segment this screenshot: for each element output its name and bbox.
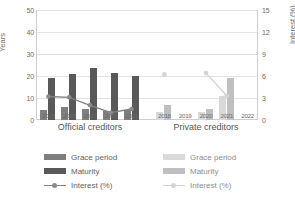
y2-tick-label: 6 (262, 73, 284, 80)
y2-tick-label: 0 (262, 117, 284, 124)
interest-line-private (154, 10, 258, 120)
legend-label: Maturity (71, 167, 99, 176)
x-tick-label: 2018 (154, 112, 175, 120)
legend-item-interest[interactable]: Interest (%) (44, 178, 164, 192)
y2-tick-label: 9 (262, 51, 284, 58)
legend-swatch-interest (44, 182, 66, 189)
interest-marker (46, 94, 51, 99)
y-axis-title-left: Years (0, 33, 7, 52)
y-tick-label: 40 (12, 29, 34, 36)
legend-label: Grace period (71, 153, 117, 162)
y-tick-label: 10 (12, 95, 34, 102)
legend-label: Interest (%) (71, 181, 112, 190)
x-tick-label: 2018 (38, 112, 59, 120)
legend-swatch-interest (163, 182, 185, 189)
legend-label: Grace period (190, 153, 236, 162)
legend-official: Grace period Maturity Interest (%) (44, 150, 164, 192)
plot-area (36, 10, 258, 120)
panel-title-private: Private creditors (151, 122, 261, 132)
interest-marker (67, 95, 72, 100)
legend-swatch-grace-period (163, 154, 185, 160)
interest-marker (88, 103, 93, 108)
x-tick-label: 2020 (196, 112, 217, 120)
panel-official-creditors (38, 10, 142, 120)
legend-item-grace-period[interactable]: Grace period (163, 150, 283, 164)
axis-tick-left (36, 10, 37, 120)
x-tick-label: 2022 (121, 112, 142, 120)
panel-title-official: Official creditors (35, 122, 145, 132)
interest-marker (204, 71, 209, 76)
y2-tick-label: 12 (262, 29, 284, 36)
legend-label: Interest (%) (190, 181, 231, 190)
x-tick-label: 2019 (59, 112, 80, 120)
y-tick-label: 0 (12, 117, 34, 124)
legend-swatch-maturity (163, 168, 185, 174)
x-tick-label: 2020 (80, 112, 101, 120)
legend-swatch-grace-period (44, 154, 66, 160)
legend-item-maturity[interactable]: Maturity (44, 164, 164, 178)
y-tick-label: 50 (12, 7, 34, 14)
interest-marker (129, 107, 134, 112)
y-tick-label: 20 (12, 73, 34, 80)
legend-label: Maturity (190, 167, 218, 176)
interest-marker (224, 93, 229, 98)
legend-item-maturity[interactable]: Maturity (163, 164, 283, 178)
chart-root: 50 40 30 20 10 0 Years 15 12 9 6 3 0 Int… (0, 0, 295, 199)
x-axis-private: 2018 2019 2020 2021 2022 (154, 112, 258, 122)
interest-line-official (38, 10, 142, 120)
interest-polyline (206, 73, 227, 96)
legend-swatch-maturity (44, 168, 66, 174)
x-tick-label: 2021 (216, 112, 237, 120)
x-axis-official: 2018 2019 2020 2021 2022 (38, 112, 142, 122)
interest-marker (162, 72, 167, 77)
y2-tick-label: 3 (262, 95, 284, 102)
x-tick-label: 2019 (175, 112, 196, 120)
x-tick-label: 2021 (100, 112, 121, 120)
legend-item-grace-period[interactable]: Grace period (44, 150, 164, 164)
legend-private: Grace period Maturity Interest (%) (163, 150, 283, 192)
panel-private-creditors (154, 10, 258, 120)
y-axis-title-right: Interest (%) (288, 5, 295, 44)
x-tick-label: 2022 (237, 112, 258, 120)
y-tick-label: 30 (12, 51, 34, 58)
y2-tick-label: 15 (262, 7, 284, 14)
legend-item-interest[interactable]: Interest (%) (163, 178, 283, 192)
